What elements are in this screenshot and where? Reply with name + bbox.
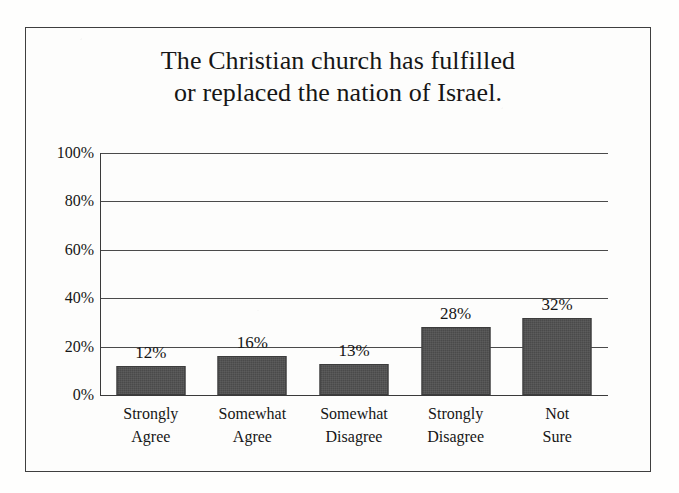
bar-value-label: 13% [338, 342, 369, 360]
chart-title: The Christian church has fulfilled or re… [25, 45, 651, 109]
bar-strongly-disagree[interactable] [421, 327, 490, 395]
x-label-line: Not [506, 402, 608, 425]
bar-group[interactable]: 32% [506, 153, 608, 395]
chart-title-line-1: The Christian church has fulfilled [25, 45, 651, 77]
x-label-line: Somewhat [303, 402, 405, 425]
x-label-somewhat-agree: SomewhatAgree [202, 402, 304, 448]
figure-page: The Christian church has fulfilled or re… [0, 0, 679, 493]
bar-value-label: 32% [542, 296, 573, 314]
x-label-somewhat-disagree: SomewhatDisagree [303, 402, 405, 448]
bar-group[interactable]: 13% [303, 153, 405, 395]
chart-title-line-2: or replaced the nation of Israel. [25, 77, 651, 109]
y-tick-label-80: 80% [34, 193, 94, 209]
x-axis-category-labels: StronglyAgreeSomewhatAgreeSomewhatDisagr… [100, 402, 608, 460]
y-tick-label-20: 20% [34, 339, 94, 355]
bar-value-label: 12% [135, 344, 166, 362]
x-label-line: Agree [202, 425, 304, 448]
x-label-strongly-disagree: StronglyDisagree [405, 402, 507, 448]
bar-group[interactable]: 16% [202, 153, 304, 395]
bar-somewhat-disagree[interactable] [319, 364, 388, 395]
bar-value-label: 16% [237, 334, 268, 352]
x-label-not-sure: NotSure [506, 402, 608, 448]
bar-series: 12%16%13%28%32% [100, 153, 608, 395]
bar-group[interactable]: 28% [405, 153, 507, 395]
x-label-line: Somewhat [202, 402, 304, 425]
bar-value-label: 28% [440, 305, 471, 323]
y-tick-label-100: 100% [34, 145, 94, 161]
y-tick-label-0: 0% [34, 387, 94, 403]
x-label-line: Strongly [100, 402, 202, 425]
x-label-strongly-agree: StronglyAgree [100, 402, 202, 448]
y-tick-label-40: 40% [34, 290, 94, 306]
bar-somewhat-agree[interactable] [218, 356, 287, 395]
bar-not-sure[interactable] [523, 318, 592, 395]
x-label-line: Strongly [405, 402, 507, 425]
bar-group[interactable]: 12% [100, 153, 202, 395]
x-label-line: Disagree [405, 425, 507, 448]
x-label-line: Disagree [303, 425, 405, 448]
x-label-line: Sure [506, 425, 608, 448]
y-tick-label-60: 60% [34, 242, 94, 258]
bar-strongly-agree[interactable] [116, 366, 185, 395]
y-axis-tick-labels: 100%80%60%40%20%0% [30, 153, 94, 395]
x-label-line: Agree [100, 425, 202, 448]
gridline-0 [100, 395, 608, 396]
